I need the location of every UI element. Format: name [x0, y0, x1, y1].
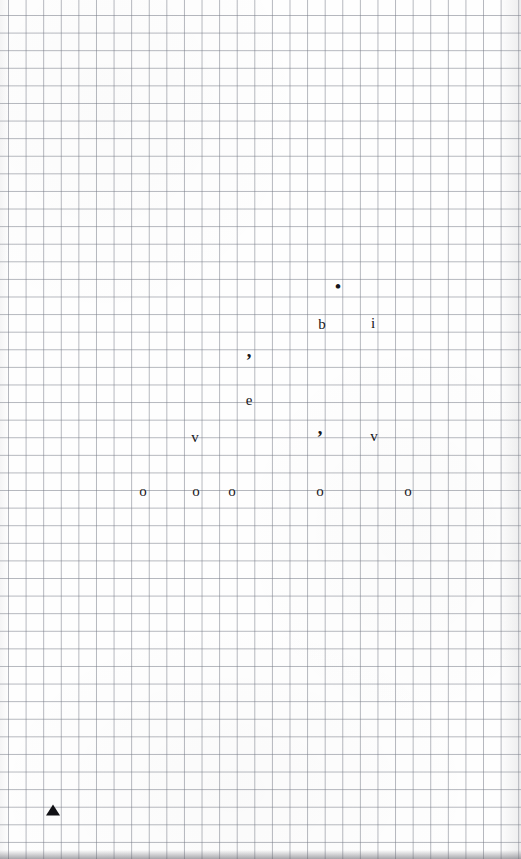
mark-v-left: v [191, 430, 199, 445]
graph-paper-grid [0, 0, 521, 859]
mark-o-5: o [404, 484, 412, 499]
mark-dot: • [335, 278, 341, 295]
mark-v-right: v [370, 429, 378, 444]
mark-comma-1: ’ [246, 351, 252, 370]
mark-o-4: o [316, 484, 324, 499]
graph-paper-page: •bi’ev’vooooo [0, 0, 521, 859]
mark-o-2: o [192, 484, 200, 499]
mark-i: i [371, 316, 375, 331]
mark-comma-2: ’ [317, 428, 323, 447]
mark-b: b [318, 317, 326, 332]
mark-e: e [246, 393, 253, 408]
mark-o-3: o [228, 484, 236, 499]
mark-o-1: o [139, 484, 147, 499]
solid-triangle-marker [46, 805, 60, 816]
